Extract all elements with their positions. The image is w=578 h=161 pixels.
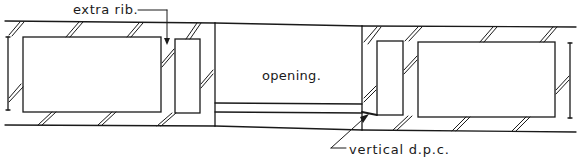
extra-rib-label: extra rib. (73, 3, 138, 16)
right-cavity (418, 42, 555, 117)
opening-label: opening. (262, 69, 321, 82)
vertical-dpc (362, 112, 377, 115)
left-wall (5, 21, 215, 126)
vertical-dpc-label: vertical d.p.c. (349, 143, 450, 156)
extra-rib-arrowhead (164, 38, 170, 45)
left-cavity (23, 37, 161, 112)
extra-rib-leader (138, 10, 167, 40)
right-rib-cavity (377, 41, 403, 115)
extra-rib-cavity (175, 39, 200, 113)
